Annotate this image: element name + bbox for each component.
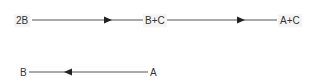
diagram-canvas [0,0,320,82]
node-A-plus-C: A+C [278,14,302,27]
arrow-right-icon [104,17,112,24]
node-A: A [148,66,159,79]
arrow-left-icon [64,69,72,76]
node-B: B [18,66,29,79]
edge-A-to-B [29,69,148,76]
node-B-plus-C: B+C [143,14,167,27]
arrow-right-icon [237,17,245,24]
edge-BC-to-AC [166,17,277,24]
edge-2B-to-BC [32,17,143,24]
node-2B: 2B [14,14,30,27]
